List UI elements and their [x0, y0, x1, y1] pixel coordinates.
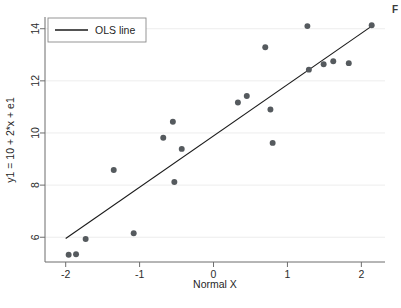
x-tick-label: 1	[285, 268, 291, 280]
legend-label-ols-line: OLS line	[95, 24, 135, 36]
y-tick-label: 8	[30, 182, 42, 188]
scatter-point	[244, 93, 250, 99]
scatter-point	[73, 251, 79, 257]
scatter-point	[306, 67, 312, 73]
x-tick-label: -2	[61, 268, 70, 280]
scatter-point	[304, 23, 310, 29]
scatter-point	[179, 146, 185, 152]
scatter-point	[330, 58, 336, 64]
scatter-point	[170, 119, 176, 125]
y-axis-title: y1 = 10 + 2*x + e1	[4, 97, 16, 183]
y-axis-ticks: 68101214	[29, 23, 45, 240]
scatter-point	[267, 107, 273, 113]
x-axis-title: Normal X	[193, 278, 237, 290]
x-tick-label: -1	[135, 268, 144, 280]
scatter-point	[171, 179, 177, 185]
scatter-point	[235, 100, 241, 106]
y-tick-label: 10	[30, 127, 42, 139]
y-tick-label: 12	[30, 75, 42, 87]
scatter-point	[131, 230, 137, 236]
scatter-point	[160, 135, 166, 141]
x-tick-label: 2	[358, 268, 364, 280]
figure-canvas: F 68101214 -2-1012 y1 = 10 + 2*x + e1 No…	[0, 0, 401, 308]
scatter-point	[369, 22, 375, 28]
scatter-plot: 68101214 -2-1012 y1 = 10 + 2*x + e1 Norm…	[0, 0, 401, 308]
scatter-point	[83, 236, 89, 242]
scatter-point	[111, 167, 117, 173]
plot-area-background	[45, 17, 385, 262]
scatter-point	[66, 252, 72, 258]
y-tick-label: 14	[29, 23, 41, 35]
scatter-point	[346, 60, 352, 66]
scatter-point	[262, 44, 268, 50]
y-tick-label: 6	[30, 234, 42, 240]
legend[interactable]: OLS line	[48, 18, 146, 42]
scatter-point	[321, 61, 327, 67]
scatter-point	[270, 140, 276, 146]
